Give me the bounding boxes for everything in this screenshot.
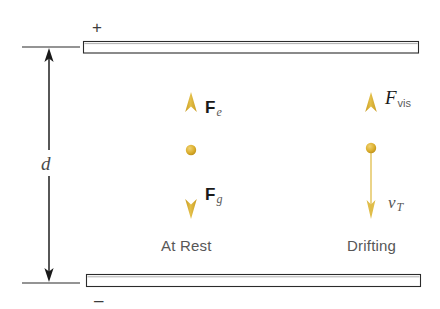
terminal-velocity-subscript: T bbox=[396, 200, 404, 214]
electric-force-symbol: F bbox=[205, 98, 215, 117]
gravitational-force-subscript: g bbox=[215, 192, 222, 206]
at-rest-caption: At Rest bbox=[161, 238, 212, 253]
diagram-canvas bbox=[0, 0, 440, 309]
negative-plate bbox=[87, 275, 421, 287]
plate-separation-dimension bbox=[22, 47, 80, 283]
negative-polarity-sign: – bbox=[94, 292, 103, 309]
positive-polarity-sign: + bbox=[92, 19, 102, 36]
physics-diagram-figure: + – d Fe Fg Fvis vT At Rest Drifting bbox=[0, 0, 440, 309]
terminal-velocity-label: vT bbox=[388, 194, 403, 211]
at-rest-force-arrows bbox=[185, 92, 197, 219]
positive-plate bbox=[84, 42, 419, 54]
electric-force-subscript: e bbox=[215, 105, 221, 119]
viscous-force-symbol: F bbox=[385, 87, 397, 108]
terminal-velocity-symbol: v bbox=[388, 193, 396, 212]
viscous-force-subscript: vis bbox=[397, 97, 411, 109]
drifting-force-arrows bbox=[365, 92, 377, 219]
gravitational-force-symbol: F bbox=[205, 185, 215, 204]
electric-force-label: Fe bbox=[205, 99, 222, 116]
drifting-caption: Drifting bbox=[347, 238, 396, 253]
gravitational-force-label: Fg bbox=[205, 186, 222, 203]
plate-separation-label: d bbox=[41, 154, 51, 173]
viscous-force-label: Fvis bbox=[385, 88, 411, 107]
